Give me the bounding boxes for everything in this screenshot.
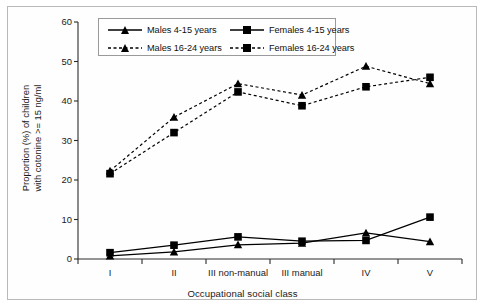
legend-swatch-females-16-24: [229, 41, 265, 55]
series-line: [110, 217, 430, 253]
triangle-marker: [362, 229, 370, 237]
square-marker: [426, 213, 434, 221]
triangle-marker: [170, 113, 178, 121]
legend-label-males-4-15: Males 4-15 years: [147, 25, 217, 35]
legend-swatch-females-4-15: [229, 23, 265, 37]
y-axis-tick-label: 60: [38, 16, 72, 27]
square-marker: [362, 83, 370, 91]
square-marker: [426, 74, 434, 82]
series-females-16-24-years: [106, 74, 434, 178]
y-axis-tick-label: 40: [38, 95, 72, 106]
square-icon: [243, 26, 251, 34]
square-marker: [362, 237, 370, 245]
y-axis-title-line-1: Proportion (%) of children: [20, 43, 32, 233]
legend-label-females-4-15: Females 4-15 years: [269, 25, 349, 35]
legend-entry-males-16-24: Males 16-24 years: [107, 41, 222, 55]
x-axis-ticks: [78, 259, 462, 264]
square-icon: [243, 44, 251, 52]
series-line: [110, 233, 430, 256]
legend-label-females-16-24: Females 16-24 years: [269, 43, 354, 53]
chart-legend: Males 4-15 years Females 4-15 years Male…: [98, 18, 336, 56]
square-marker: [234, 233, 242, 241]
square-marker: [106, 249, 114, 257]
legend-swatch-males-16-24: [107, 41, 143, 55]
series-line: [110, 77, 430, 173]
y-axis-tick-label: 10: [38, 214, 72, 225]
triangle-marker: [234, 79, 242, 87]
square-marker: [170, 129, 178, 137]
square-marker: [234, 88, 242, 96]
triangle-marker: [298, 91, 306, 99]
triangle-marker: [362, 62, 370, 70]
figure-container: Proportion (%) of children with cotonine…: [0, 0, 485, 308]
square-marker: [298, 237, 306, 245]
square-marker: [298, 102, 306, 110]
series-males-16-24-years: [106, 62, 434, 174]
legend-entry-males-4-15: Males 4-15 years: [107, 23, 217, 37]
y-axis-tick-label: 20: [38, 174, 72, 185]
legend-swatch-males-4-15: [107, 23, 143, 37]
legend-label-males-16-24: Males 16-24 years: [147, 43, 222, 53]
y-axis-tick-label: 0: [38, 253, 72, 264]
triangle-icon: [121, 44, 129, 52]
square-marker: [106, 170, 114, 178]
series-line: [110, 66, 430, 171]
x-axis-tick-label: V: [385, 267, 475, 278]
legend-entry-females-4-15: Females 4-15 years: [229, 23, 349, 37]
y-axis-ticks: [74, 22, 78, 259]
x-axis-title: Occupational social class: [0, 288, 485, 299]
y-axis-tick-label: 30: [38, 135, 72, 146]
y-axis-tick-label: 50: [38, 56, 72, 67]
data-series-layer: [106, 62, 434, 259]
legend-entry-females-16-24: Females 16-24 years: [229, 41, 354, 55]
square-marker: [170, 241, 178, 249]
